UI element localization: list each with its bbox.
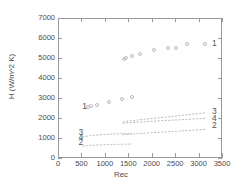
x-tick-mark: [152, 153, 153, 158]
data-point-marker: [166, 46, 170, 50]
y-tick-mark: [218, 38, 222, 39]
x-tick-mark: [128, 153, 129, 158]
x-tick-mark: [152, 18, 153, 22]
y-tick-mark: [218, 98, 222, 99]
curve-label-2: 2: [78, 138, 83, 147]
chart-container: H (W/m^2 K) 0100020003000400050006000700…: [0, 0, 242, 187]
data-point-marker: [89, 104, 93, 108]
y-tick-label: 1000: [38, 134, 55, 142]
y-tick-mark: [58, 78, 62, 79]
curve-label-2: 2: [212, 121, 217, 130]
y-axis-title: H (W/m^2 K): [7, 29, 16, 125]
x-tick-mark: [58, 18, 59, 22]
x-tick-mark: [128, 18, 129, 22]
y-tick-mark: [218, 78, 222, 79]
x-tick-mark: [105, 153, 106, 158]
y-tick-label: 6000: [38, 34, 55, 42]
y-tick-mark: [58, 38, 62, 39]
x-tick-mark: [175, 18, 176, 22]
data-point-marker: [107, 100, 111, 104]
y-tick-mark: [218, 118, 222, 119]
y-tick-label: 4000: [38, 74, 55, 82]
y-tick-mark: [58, 118, 62, 119]
x-tick-mark: [105, 18, 106, 22]
x-tick-mark: [175, 153, 176, 158]
x-tick-mark: [81, 18, 82, 22]
x-tick-mark: [58, 153, 59, 158]
y-tick-mark: [218, 58, 222, 59]
y-tick-mark: [58, 138, 62, 139]
y-tick-label: 7000: [38, 14, 55, 22]
x-axis-title: Rec: [0, 170, 242, 179]
y-tick-label: 3000: [38, 94, 55, 102]
x-tick-label: 3500: [207, 160, 237, 168]
curve-label-1: 1: [212, 39, 217, 48]
y-tick-mark: [58, 58, 62, 59]
y-tick-mark: [58, 98, 62, 99]
x-tick-mark: [199, 153, 200, 158]
curve-label-1: 1: [82, 102, 87, 111]
y-tick-label: 2000: [38, 114, 55, 122]
x-tick-mark: [222, 153, 223, 158]
x-tick-mark: [222, 18, 223, 22]
y-tick-mark: [218, 138, 222, 139]
data-point-marker: [203, 42, 207, 46]
y-tick-label: 5000: [38, 54, 55, 62]
x-tick-mark: [81, 153, 82, 158]
data-point-marker: [138, 52, 142, 56]
x-tick-mark: [199, 18, 200, 22]
